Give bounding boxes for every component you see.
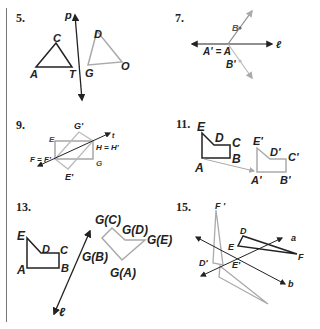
svg-text:E: E <box>228 242 235 252</box>
svg-text:O: O <box>121 60 130 72</box>
svg-text:B': B' <box>226 59 236 70</box>
svg-text:G(B): G(B) <box>82 250 108 264</box>
svg-text:ℓ: ℓ <box>59 305 66 319</box>
svg-text:G: G <box>96 159 102 168</box>
svg-text:ℓ: ℓ <box>276 39 282 50</box>
svg-text:E: E <box>197 120 206 134</box>
svg-text:a: a <box>291 233 296 243</box>
svg-text:T: T <box>69 68 77 80</box>
svg-text:G': G' <box>74 121 84 131</box>
svg-text:t: t <box>112 132 115 139</box>
svg-text:E: E <box>17 229 26 243</box>
figure-7: B A' = A B' ℓ <box>192 11 282 78</box>
svg-text:F = F': F = F' <box>30 155 52 164</box>
svg-text:D: D <box>94 28 102 40</box>
svg-text:C': C' <box>288 151 299 163</box>
svg-text:E': E' <box>232 260 241 270</box>
svg-text:H = H': H = H' <box>96 143 120 152</box>
svg-text:E: E <box>49 135 55 144</box>
figure-9: G' E t H = H' F = F' G E' <box>30 121 120 182</box>
figure-5: p A C T D G O <box>29 9 130 100</box>
svg-text:A' = A: A' = A <box>202 46 231 57</box>
svg-text:D': D' <box>270 146 281 158</box>
svg-text:G: G <box>85 67 94 79</box>
figure-15: F ' D a E F D' E' b <box>196 201 304 304</box>
svg-text:A: A <box>29 68 38 80</box>
svg-text:B': B' <box>280 174 291 186</box>
svg-text:C: C <box>53 32 62 44</box>
svg-text:G(C): G(C) <box>95 213 121 227</box>
figure-13: E D C A B G(C) G(D) G(E) G(B) G(A) ℓ <box>16 213 172 319</box>
figures: p A C T D G O B A' = A B' ℓ G' E t H = H… <box>0 0 320 329</box>
svg-text:B: B <box>232 23 239 33</box>
svg-text:C: C <box>232 136 241 150</box>
svg-text:D: D <box>42 243 50 255</box>
svg-text:F ': F ' <box>215 201 226 211</box>
svg-text:A: A <box>16 263 26 277</box>
svg-text:b: b <box>288 279 294 289</box>
svg-text:D': D' <box>199 258 208 268</box>
svg-text:G(E): G(E) <box>147 233 172 247</box>
svg-text:D: D <box>240 226 247 236</box>
figure-11: E D C B A E' D' C' A' B' <box>194 120 299 186</box>
svg-text:G(D): G(D) <box>122 223 148 237</box>
svg-text:C: C <box>60 244 69 256</box>
svg-text:D: D <box>215 131 224 145</box>
svg-text:F: F <box>298 252 304 262</box>
svg-text:E': E' <box>253 135 263 147</box>
svg-text:B: B <box>232 152 241 166</box>
svg-text:E': E' <box>65 172 74 182</box>
svg-text:A': A' <box>250 174 262 186</box>
svg-text:A: A <box>194 161 204 175</box>
svg-text:B: B <box>61 262 69 274</box>
svg-text:G(A): G(A) <box>110 266 136 280</box>
svg-text:p: p <box>64 9 72 21</box>
